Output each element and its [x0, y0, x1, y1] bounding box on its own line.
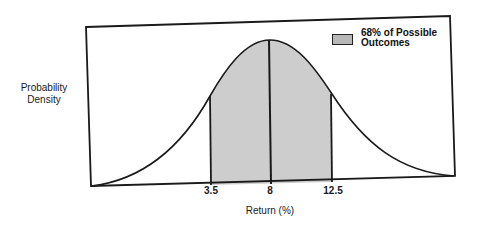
legend-label: 68% of Possible Outcomes — [361, 28, 451, 48]
y-axis-label-line2: Density — [6, 94, 82, 106]
y-axis-label-line1: Probability — [6, 82, 82, 94]
upper-bound-line — [331, 94, 332, 182]
x-axis-label: Return (%) — [240, 205, 300, 216]
x-tick-8: 8 — [267, 185, 273, 196]
lower-bound-line — [210, 96, 211, 185]
x-tick-3-5: 3.5 — [204, 185, 218, 196]
legend-label-line2: Outcomes — [361, 38, 451, 48]
y-axis-label: Probability Density — [6, 82, 82, 106]
x-tick-12-5: 12.5 — [323, 185, 342, 196]
legend-swatch — [332, 34, 353, 45]
legend: 68% of Possible Outcomes — [332, 28, 451, 48]
